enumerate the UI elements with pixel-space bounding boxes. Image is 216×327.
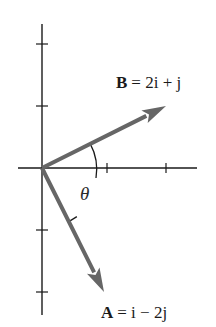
- vector-a-label: A= i − 2j: [101, 303, 167, 322]
- angle-theta-label: θ: [80, 183, 89, 204]
- vector-b-shaft: [42, 116, 146, 168]
- vector-a-name: A: [101, 303, 114, 322]
- vector-diagram: θ B= 2i + j A= i − 2j: [0, 0, 216, 327]
- vector-b-label: B= 2i + j: [116, 73, 181, 92]
- vector-b-arrow: [42, 106, 166, 168]
- vector-b-name: B: [116, 73, 127, 92]
- angle-arc-b: [90, 144, 96, 178]
- vector-a-expression: = i − 2j: [117, 303, 167, 322]
- vector-b-expression: = 2i + j: [131, 73, 181, 92]
- vector-a-arrow: [42, 168, 104, 292]
